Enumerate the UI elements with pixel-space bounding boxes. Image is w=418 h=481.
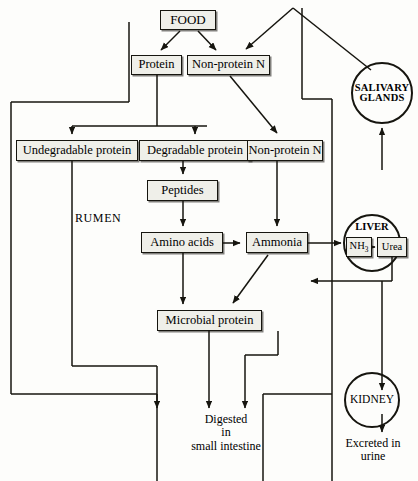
organ-salivary-glands: SALIVARY GLANDS bbox=[351, 62, 413, 124]
node-peptides: Peptides bbox=[147, 180, 218, 201]
label-digested-small-intestine: Digested in small intestine bbox=[176, 413, 276, 453]
node-non-protein-n-rumen: Non-protein N bbox=[247, 140, 323, 161]
node-non-protein-n-top: Non-protein N bbox=[187, 55, 270, 75]
node-degradable-protein-label: Degradable protein bbox=[147, 144, 243, 157]
label-rumen: RUMEN bbox=[75, 212, 121, 225]
node-ammonia-liver-label: NH3 bbox=[350, 240, 369, 254]
organ-salivary-glands-label: SALIVARY GLANDS bbox=[355, 83, 410, 104]
nitrogen-metabolism-diagram: FOOD Protein Non-protein N Undegradable … bbox=[0, 0, 418, 481]
organ-kidney: KIDNEY bbox=[344, 372, 400, 428]
node-protein-label: Protein bbox=[138, 58, 174, 71]
node-non-protein-n-top-label: Non-protein N bbox=[192, 58, 265, 71]
node-undegradable-protein-label: Undegradable protein bbox=[23, 144, 132, 157]
node-urea: Urea bbox=[377, 237, 407, 257]
node-ammonia-liver: NH3 bbox=[346, 237, 372, 257]
node-food-label: FOOD bbox=[170, 13, 205, 27]
node-ammonia-label: Ammonia bbox=[252, 236, 302, 249]
node-microbial-protein: Microbial protein bbox=[157, 310, 262, 331]
organ-liver-label: LIVER bbox=[355, 222, 388, 233]
node-microbial-protein-label: Microbial protein bbox=[166, 314, 254, 327]
node-undegradable-protein: Undegradable protein bbox=[16, 140, 138, 161]
node-peptides-label: Peptides bbox=[161, 184, 203, 197]
node-food: FOOD bbox=[160, 10, 216, 30]
node-degradable-protein: Degradable protein bbox=[139, 140, 251, 161]
node-non-protein-n-rumen-label: Non-protein N bbox=[248, 144, 321, 157]
organ-kidney-label: KIDNEY bbox=[350, 394, 394, 406]
node-urea-label: Urea bbox=[382, 241, 402, 252]
label-excreted-urine: Excreted in urine bbox=[331, 437, 415, 464]
node-ammonia: Ammonia bbox=[246, 232, 308, 253]
node-protein: Protein bbox=[131, 55, 182, 75]
node-amino-acids-label: Amino acids bbox=[150, 236, 214, 249]
node-amino-acids: Amino acids bbox=[141, 232, 223, 253]
